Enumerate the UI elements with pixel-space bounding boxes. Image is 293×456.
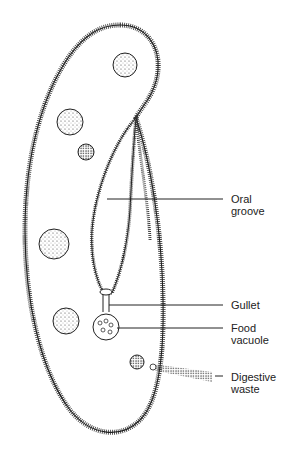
label-line: waste — [231, 383, 276, 395]
label-line: Food — [231, 322, 269, 334]
label-line: groove — [231, 205, 265, 217]
food-vacuole-structure — [93, 314, 119, 340]
label-line: vacuole — [231, 334, 269, 346]
label-gullet: Gullet — [231, 299, 260, 311]
label-oral-groove: Oral groove — [231, 193, 265, 217]
label-line: Gullet — [231, 299, 260, 311]
label-line: Oral — [231, 193, 265, 205]
label-food-vacuole: Food vacuole — [231, 322, 269, 346]
label-digestive-waste: Digestive waste — [231, 371, 276, 395]
label-line: Digestive — [231, 371, 276, 383]
